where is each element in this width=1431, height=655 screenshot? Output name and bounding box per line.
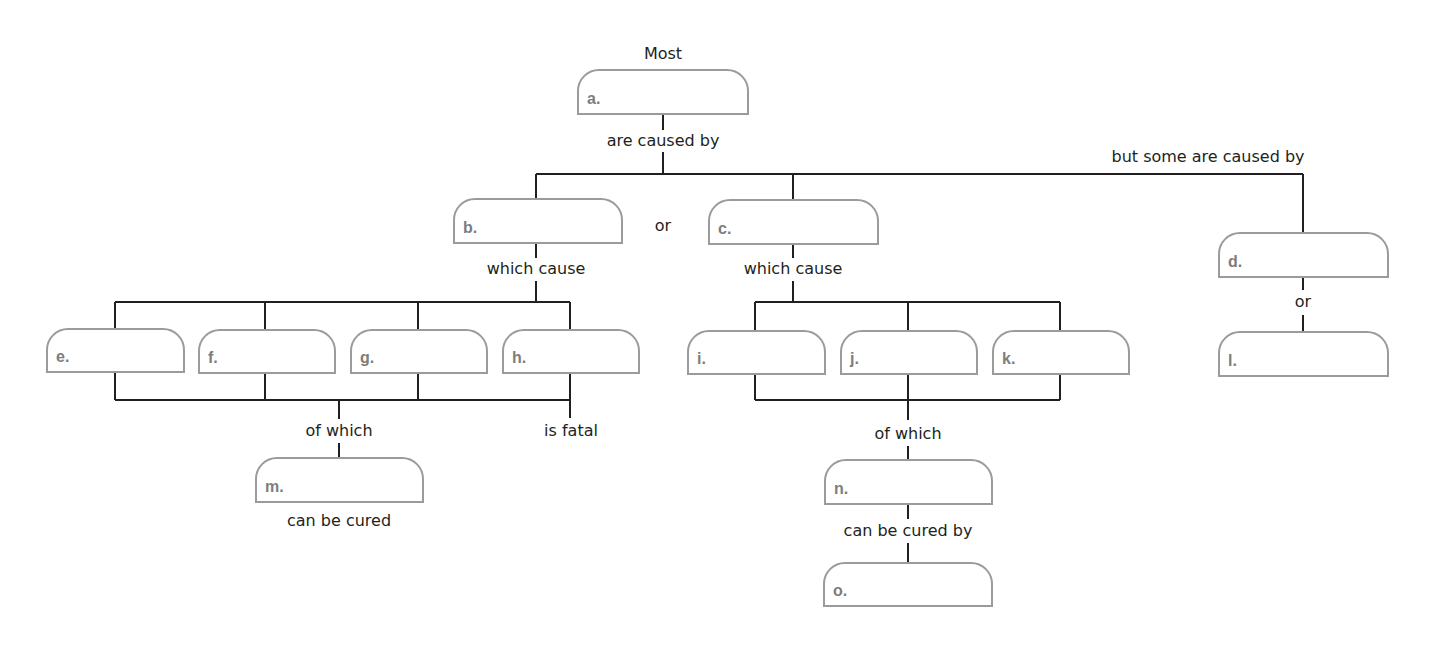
node-e[interactable]: e. <box>46 328 185 373</box>
node-d-answer-field[interactable] <box>1254 252 1377 270</box>
node-f-answer-field[interactable] <box>234 348 324 366</box>
node-c-answer-field[interactable] <box>744 219 867 237</box>
node-o-answer-field[interactable] <box>859 581 981 599</box>
node-i-letter: i. <box>697 351 706 367</box>
node-h[interactable]: h. <box>502 329 640 374</box>
node-n-letter: n. <box>834 481 848 497</box>
node-o[interactable]: o. <box>823 562 993 607</box>
node-b-answer-field[interactable] <box>489 218 611 236</box>
node-d[interactable]: d. <box>1218 232 1389 278</box>
node-j[interactable]: j. <box>840 330 978 375</box>
node-b-letter: b. <box>463 220 477 236</box>
node-i-answer-field[interactable] <box>723 349 814 367</box>
label-which-cause-b: which cause <box>485 259 588 279</box>
label-but-some-are-caused-by: but some are caused by <box>1109 147 1306 167</box>
label-can-be-cured-by: can be cured by <box>842 521 975 541</box>
node-h-answer-field[interactable] <box>538 348 628 366</box>
node-l[interactable]: l. <box>1218 331 1389 377</box>
node-m-answer-field[interactable] <box>291 477 412 495</box>
node-n[interactable]: n. <box>824 459 993 505</box>
node-o-letter: o. <box>833 583 847 599</box>
node-c[interactable]: c. <box>708 199 879 245</box>
node-l-answer-field[interactable] <box>1254 351 1377 369</box>
concept-map: Most are caused by but some are caused b… <box>0 0 1431 655</box>
label-or-d-l: or <box>1293 292 1313 312</box>
node-j-answer-field[interactable] <box>876 349 966 367</box>
node-e-letter: e. <box>56 349 69 365</box>
node-e-answer-field[interactable] <box>82 347 173 365</box>
node-a[interactable]: a. <box>577 69 749 115</box>
node-a-answer-field[interactable] <box>613 89 737 107</box>
node-a-letter: a. <box>587 91 600 107</box>
label-most: Most <box>642 44 684 64</box>
node-k-answer-field[interactable] <box>1028 349 1118 367</box>
node-j-letter: j. <box>850 351 859 367</box>
node-c-letter: c. <box>718 221 731 237</box>
node-f-letter: f. <box>208 350 218 366</box>
node-b[interactable]: b. <box>453 198 623 244</box>
label-of-which-left: of which <box>303 421 374 441</box>
node-g-letter: g. <box>360 350 374 366</box>
node-k[interactable]: k. <box>992 330 1130 375</box>
label-are-caused-by: are caused by <box>605 131 722 151</box>
label-is-fatal: is fatal <box>542 421 600 441</box>
node-n-answer-field[interactable] <box>860 479 981 497</box>
node-h-letter: h. <box>512 350 526 366</box>
node-g[interactable]: g. <box>350 329 488 374</box>
label-or-b-c: or <box>653 216 673 236</box>
node-m[interactable]: m. <box>255 457 424 503</box>
label-of-which-right: of which <box>872 424 943 444</box>
label-which-cause-c: which cause <box>742 259 845 279</box>
node-d-letter: d. <box>1228 254 1242 270</box>
node-k-letter: k. <box>1002 351 1015 367</box>
label-can-be-cured: can be cured <box>285 511 393 531</box>
node-i[interactable]: i. <box>687 330 826 375</box>
node-g-answer-field[interactable] <box>386 348 476 366</box>
node-l-letter: l. <box>1228 353 1237 369</box>
node-f[interactable]: f. <box>198 329 336 374</box>
node-m-letter: m. <box>265 479 284 495</box>
